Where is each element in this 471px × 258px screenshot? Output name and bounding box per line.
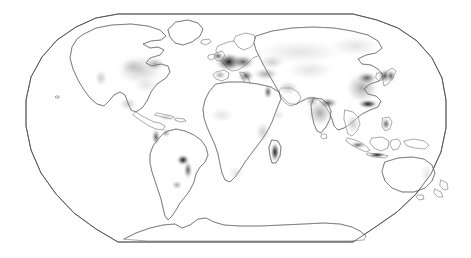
density-british-isles — [212, 51, 224, 61]
density-italy-mediterranean — [237, 69, 255, 83]
density-east-africa-rift — [255, 121, 271, 143]
density-mexico-central — [118, 97, 138, 111]
density-us-northeast-corridor — [144, 57, 166, 71]
density-madagascar — [270, 141, 280, 163]
world-map — [0, 0, 471, 258]
density-philippines — [381, 117, 391, 131]
density-california-coast — [94, 69, 108, 87]
density-caribbean — [157, 113, 175, 121]
hawaii-islands — [56, 96, 59, 98]
new-zealand — [440, 180, 448, 190]
density-siberia-east — [327, 35, 383, 57]
density-colombia — [161, 128, 171, 138]
density-sumatra — [349, 141, 367, 149]
density-indochina — [345, 113, 361, 135]
sri-lanka-island — [321, 134, 327, 139]
density-argentina-rio-plata — [171, 180, 183, 190]
figure-container — [0, 0, 471, 258]
density-north-china-plain — [356, 71, 378, 85]
density-andes-coast-peru — [151, 128, 161, 146]
density-java-indonesia — [367, 152, 387, 158]
density-south-africa — [227, 166, 245, 180]
density-us-midwest — [119, 58, 147, 76]
tasmania-island — [416, 195, 424, 200]
density-us-southeast — [133, 76, 159, 94]
density-south-china-coast — [357, 99, 379, 109]
density-brazil-coastal-strip — [183, 160, 193, 180]
density-japan-honshu — [386, 69, 396, 83]
density-central-asia — [284, 59, 336, 81]
density-west-africa-coast — [209, 107, 235, 123]
density-iberia — [213, 70, 227, 80]
new-zealand-south — [434, 189, 443, 197]
density-central-europe — [230, 54, 256, 70]
density-pakistan-indus — [305, 94, 319, 108]
